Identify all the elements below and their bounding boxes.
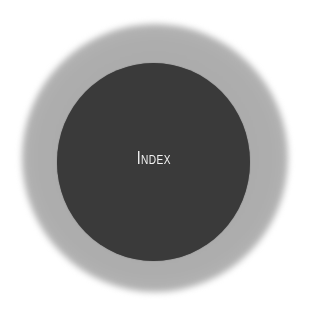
- index-label: Index: [136, 148, 170, 169]
- index-disc: Index: [57, 63, 250, 261]
